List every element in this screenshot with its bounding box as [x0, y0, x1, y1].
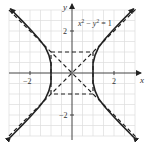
tick-label-y-neg2: −2: [59, 111, 68, 120]
tick-label-x-neg2: −2: [23, 77, 32, 86]
tick-label-x-2: 2: [112, 77, 116, 86]
tick-label-y-2: 2: [63, 27, 67, 36]
hyperbola-diagram: x y −2 2 2 −2 x2 − y2 = 1: [0, 0, 153, 146]
x-axis-label: x: [139, 75, 144, 85]
y-axis-label: y: [62, 2, 67, 12]
